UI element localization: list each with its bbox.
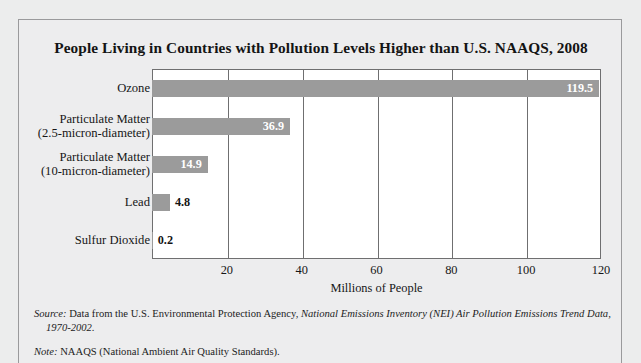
plot-wrapper: 119.536.914.94.80.2 [152, 69, 601, 259]
category-label-line: Lead [22, 195, 150, 209]
category-label: Lead [22, 195, 150, 209]
x-tick-label: 40 [295, 263, 307, 278]
note-label: Note: [34, 346, 58, 357]
category-label-line: (2.5-micron-diameter) [22, 126, 150, 140]
note-text: NAAQS (National Ambient Air Quality Stan… [58, 346, 280, 357]
source-note: Source: Data from the U.S. Environmental… [34, 307, 612, 334]
bar[interactable] [152, 232, 153, 249]
x-tick-label: 60 [370, 263, 382, 278]
x-axis-tick-labels: 20406080100120 [152, 263, 601, 281]
source-text: Data from the U.S. Environmental Protect… [67, 308, 301, 319]
category-label-line: Ozone [22, 81, 150, 95]
bar-value-label: 119.5 [559, 80, 593, 97]
category-axis-labels: OzoneParticulate Matter(2.5-micron-diame… [19, 69, 150, 259]
category-label: Sulfur Dioxide [22, 233, 150, 247]
bar[interactable] [152, 194, 170, 211]
bar-value-label: 0.2 [158, 232, 173, 249]
category-label-line: Particulate Matter [22, 112, 150, 126]
chart-title: People Living in Countries with Pollutio… [19, 39, 623, 57]
x-axis-title: Millions of People [152, 281, 601, 296]
bar-value-label: 36.9 [250, 118, 284, 135]
category-label-line: Sulfur Dioxide [22, 233, 150, 247]
general-note: Note: NAAQS (National Ambient Air Qualit… [34, 345, 612, 359]
x-tick-label: 80 [445, 263, 457, 278]
x-tick-label: 100 [517, 263, 536, 278]
category-label: Particulate Matter(10-micron-diameter) [22, 150, 150, 178]
source-label: Source: [34, 308, 67, 319]
category-label-line: (10-micron-diameter) [22, 164, 150, 178]
bar-value-label: 4.8 [175, 194, 190, 211]
category-label: Particulate Matter(2.5-micron-diameter) [22, 112, 150, 140]
bar[interactable] [152, 80, 599, 97]
bar-row: 36.9 [152, 107, 601, 145]
footnotes: Source: Data from the U.S. Environmental… [34, 307, 612, 359]
bar-row: 119.5 [152, 69, 601, 107]
source-italic-title: National Emissions Inventory (NEI) Air P… [301, 308, 611, 319]
category-label-line: Particulate Matter [22, 150, 150, 164]
category-label: Ozone [22, 81, 150, 95]
source-italic-title-line2: 1970-2002. [34, 321, 612, 335]
bar-row: 4.8 [152, 183, 601, 221]
bar-row: 14.9 [152, 145, 601, 183]
x-tick-label: 20 [221, 263, 233, 278]
bar-row: 0.2 [152, 221, 601, 259]
x-tick-label: 120 [592, 263, 611, 278]
figure-container: People Living in Countries with Pollutio… [18, 19, 622, 363]
bar-value-label: 14.9 [168, 156, 202, 173]
